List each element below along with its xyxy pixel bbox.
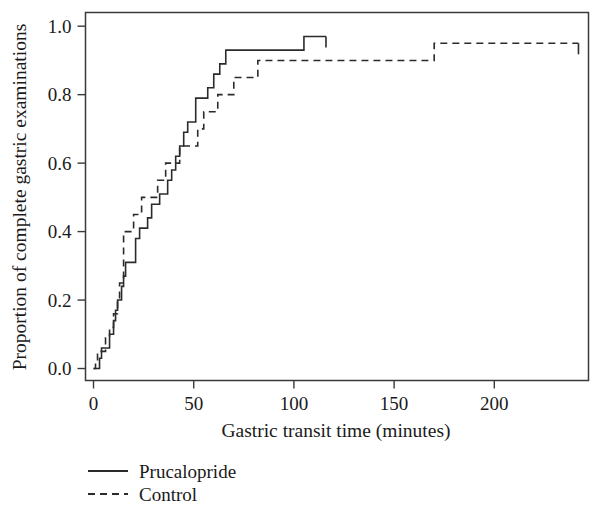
x-tick-label-2: 100: [280, 393, 309, 414]
y-tick-label-4: 0.8: [48, 84, 72, 105]
x-tick-label-4: 200: [480, 393, 509, 414]
y-axis-tick-labels: 0.00.20.40.60.81.0: [48, 16, 72, 379]
series-line-prucalopride: [94, 36, 326, 368]
y-tick-label-1: 0.2: [48, 290, 72, 311]
data-series-group: [94, 36, 579, 368]
figure-container: 0.00.20.40.60.81.0 050100150200 Gastric …: [0, 0, 603, 514]
x-axis-tick-labels: 050100150200: [89, 393, 509, 414]
y-axis-ticks: [78, 26, 86, 368]
x-tick-label-3: 150: [380, 393, 409, 414]
chart-legend: Prucalopride Control: [88, 461, 236, 505]
x-axis-ticks: [94, 381, 495, 389]
y-axis-label: Proportion of complete gastric examinati…: [9, 24, 30, 371]
y-tick-label-0: 0.0: [48, 358, 72, 379]
x-axis-label: Gastric transit time (minutes): [221, 420, 450, 442]
y-tick-label-2: 0.4: [48, 221, 72, 242]
legend-label-control: Control: [139, 484, 197, 505]
y-tick-label-5: 1.0: [48, 16, 72, 37]
series-line-control: [94, 43, 579, 368]
gastric-transit-chart: 0.00.20.40.60.81.0 050100150200 Gastric …: [0, 0, 603, 514]
x-tick-label-1: 50: [184, 393, 203, 414]
x-tick-label-0: 0: [89, 393, 99, 414]
legend-label-prucalopride: Prucalopride: [139, 461, 236, 482]
plot-frame: [86, 13, 589, 381]
y-tick-label-3: 0.6: [48, 153, 72, 174]
